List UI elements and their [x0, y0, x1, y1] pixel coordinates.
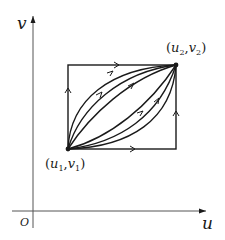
arrow-icon	[107, 71, 113, 76]
axes: u v O	[12, 13, 213, 233]
path-lower-3	[68, 65, 176, 149]
u-axis-label: u	[202, 213, 213, 233]
path-upper-1	[68, 65, 176, 149]
v-axis-label: v	[17, 13, 27, 33]
path-lower-2	[68, 65, 176, 149]
path-lower-1	[68, 65, 176, 149]
arrow-icon	[137, 111, 143, 116]
region-rectangle	[68, 65, 176, 149]
start-point	[66, 147, 71, 152]
paths	[68, 65, 176, 149]
end-point-label: (u2,v2)	[166, 40, 206, 57]
start-point-label: (u1,v1)	[45, 156, 85, 173]
path-diagram: u v O (u1,v1) (u2,v2)	[0, 0, 225, 240]
end-point	[174, 63, 179, 68]
path-upper-2	[68, 65, 176, 149]
origin-label: O	[20, 216, 29, 229]
path-upper-3	[68, 65, 176, 149]
